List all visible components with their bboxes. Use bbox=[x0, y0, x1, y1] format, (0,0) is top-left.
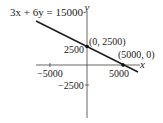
y-tick-label-neg2500: −2500 bbox=[58, 80, 84, 91]
graph: 3x + 6y = 15000 y x (0, 2500) (5000, 0) … bbox=[0, 0, 163, 123]
y-axis-label: y bbox=[84, 1, 90, 13]
x-tick-label-5000: 5000 bbox=[109, 68, 129, 79]
equation-label: 3x + 6y = 15000 bbox=[10, 6, 83, 18]
y-tick-label-2500: 2500 bbox=[64, 44, 84, 55]
point-label-y-intercept: (0, 2500) bbox=[89, 36, 126, 48]
point-label-x-intercept: (5000, 0) bbox=[118, 49, 155, 61]
intercept-point-x bbox=[121, 63, 125, 67]
x-tick-label-neg5000: −5000 bbox=[37, 68, 63, 79]
